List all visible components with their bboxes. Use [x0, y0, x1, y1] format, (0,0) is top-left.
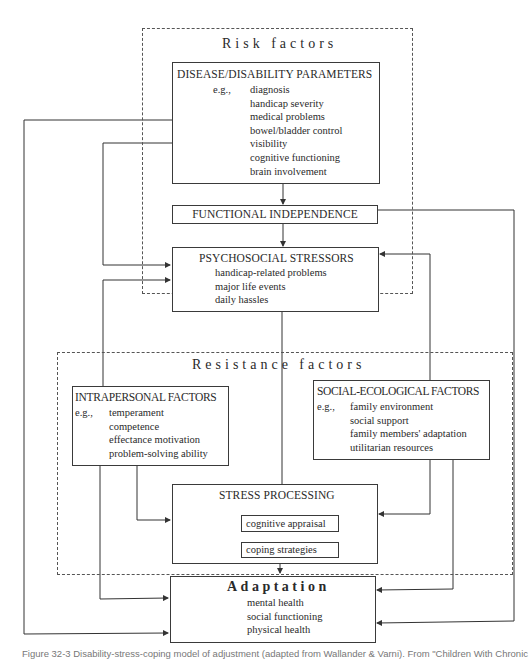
functional-independence-box: FUNCTIONAL INDEPENDENCE	[172, 205, 378, 224]
list-item: handicap severity	[250, 97, 342, 111]
eg-label: e.g.,	[75, 407, 93, 418]
eg-label: e.g.,	[317, 401, 335, 412]
intrapersonal-factors-title: INTRAPERSONAL FACTORS	[75, 391, 216, 403]
stress-processing-title: STRESS PROCESSING	[219, 489, 335, 501]
list-item: mental health	[247, 596, 323, 610]
disease-disability-parameters-box: DISEASE/DISABILITY PARAMETERS e.g., diag…	[172, 62, 380, 184]
adaptation-title: Adaptation	[227, 579, 330, 595]
list-item: bowel/bladder control	[250, 124, 342, 138]
list-item: diagnosis	[250, 83, 342, 97]
list-item: handicap-related problems	[215, 266, 327, 280]
cognitive-appraisal-box: cognitive appraisal	[241, 515, 339, 532]
list-item: utilitarian resources	[350, 441, 467, 455]
social-ecological-factors-title: SOCIAL-ECOLOGICAL FACTORS	[317, 385, 479, 397]
list-item: medical problems	[250, 110, 342, 124]
figure-caption: Figure 32-3 Disability-stress-coping mod…	[22, 648, 528, 659]
list-item: social functioning	[247, 610, 323, 624]
resistance-factors-label: Resistance factors	[192, 357, 365, 373]
functional-independence-title: FUNCTIONAL INDEPENDENCE	[173, 206, 377, 223]
list-item: visibility	[250, 137, 342, 151]
eg-label: e.g.,	[213, 84, 231, 95]
list-item: daily hassles	[215, 293, 327, 307]
list-item: effectance motivation	[109, 433, 208, 447]
list-item: physical health	[247, 623, 323, 637]
psychosocial-stressors-title: PSYCHOSOCIAL STRESSORS	[199, 252, 354, 264]
list-item: social support	[350, 414, 467, 428]
disease-disability-title: DISEASE/DISABILITY PARAMETERS	[177, 68, 372, 80]
list-item: competence	[109, 420, 208, 434]
list-item: cognitive functioning	[250, 151, 342, 165]
list-item: family environment	[350, 400, 467, 414]
coping-strategies-box: coping strategies	[241, 542, 339, 558]
list-item: family members' adaptation	[350, 427, 467, 441]
list-item: brain involvement	[250, 165, 342, 179]
adaptation-box: Adaptation mental health social function…	[170, 576, 376, 643]
stress-processing-box: STRESS PROCESSING cognitive appraisal co…	[172, 484, 378, 564]
social-ecological-factors-box: SOCIAL-ECOLOGICAL FACTORS e.g., family e…	[313, 380, 490, 460]
list-item: major life events	[215, 280, 327, 294]
intrapersonal-factors-box: INTRAPERSONAL FACTORS e.g., temperament …	[72, 386, 229, 466]
list-item: temperament	[109, 406, 208, 420]
risk-factors-label: Risk factors	[222, 36, 337, 52]
list-item: problem-solving ability	[109, 447, 208, 461]
psychosocial-stressors-box: PSYCHOSOCIAL STRESSORS handicap-related …	[172, 247, 379, 312]
